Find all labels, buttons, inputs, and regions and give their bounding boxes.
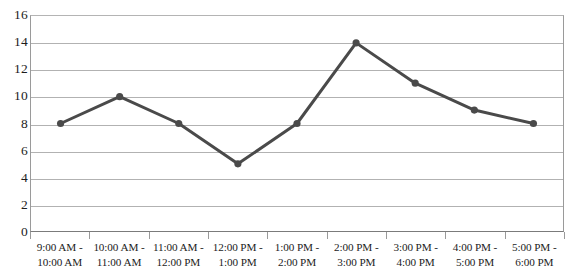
x-axis-category-label-line2: 1:00 PM bbox=[208, 255, 267, 270]
x-axis: 9:00 AM -10:00 AM10:00 AM -11:00 AM11:00… bbox=[30, 239, 564, 275]
x-axis-category-label-line1: 11:00 AM - bbox=[149, 240, 208, 255]
x-axis-category-label-line1: 5:00 PM - bbox=[505, 240, 564, 255]
y-axis-tick-label: 12 bbox=[2, 63, 28, 77]
y-axis-tick-label: 14 bbox=[2, 35, 28, 49]
data-point-marker: 3:00 PM - 4:00 PM: 11 bbox=[412, 80, 419, 87]
x-axis-category-label-line1: 12:00 PM - bbox=[208, 240, 267, 255]
x-axis-category-label: 1:00 PM -2:00 PM bbox=[267, 239, 326, 275]
plot-area: 9:00 AM - 10:00 AM: 810:00 AM - 11:00 AM… bbox=[30, 15, 564, 232]
x-axis-category-label: 5:00 PM -6:00 PM bbox=[505, 239, 564, 275]
x-axis-category-label-line1: 1:00 PM - bbox=[267, 240, 326, 255]
data-series: 9:00 AM - 10:00 AM: 810:00 AM - 11:00 AM… bbox=[31, 16, 563, 231]
x-axis-category-label-line1: 2:00 PM - bbox=[327, 240, 386, 255]
x-axis-category-label-line2: 2:00 PM bbox=[267, 255, 326, 270]
x-axis-tick bbox=[267, 232, 268, 239]
data-point-marker: 2:00 PM - 3:00 PM: 14 bbox=[353, 39, 360, 46]
series-line bbox=[61, 43, 534, 164]
x-axis-tick bbox=[505, 232, 506, 239]
y-axis-tick-label: 8 bbox=[2, 117, 28, 131]
data-point-marker: 1:00 PM - 2:00 PM: 8 bbox=[293, 120, 300, 127]
line-chart: 1614121086420 9:00 AM - 10:00 AM: 810:00… bbox=[0, 0, 569, 275]
y-axis-tick-label: 4 bbox=[2, 171, 28, 185]
y-axis-tick-label: 10 bbox=[2, 90, 28, 104]
y-axis-tick-label: 2 bbox=[2, 198, 28, 212]
x-axis-tick bbox=[149, 232, 150, 239]
x-axis-tick bbox=[386, 232, 387, 239]
data-point-marker: 12:00 PM - 1:00 PM: 5 bbox=[234, 160, 241, 167]
x-axis-category-label-line1: 4:00 PM - bbox=[445, 240, 504, 255]
y-axis-tick-label: 0 bbox=[2, 225, 28, 239]
y-axis-tick-label: 6 bbox=[2, 144, 28, 158]
data-point-marker: 11:00 AM - 12:00 PM: 8 bbox=[175, 120, 182, 127]
x-axis-category-label-line2: 6:00 PM bbox=[505, 255, 564, 270]
x-axis-category-label-line1: 3:00 PM - bbox=[386, 240, 445, 255]
x-axis-category-label-line2: 5:00 PM bbox=[445, 255, 504, 270]
x-axis-tick bbox=[445, 232, 446, 239]
x-axis-tick bbox=[564, 232, 565, 239]
x-axis-tick bbox=[208, 232, 209, 239]
data-point-marker: 10:00 AM - 11:00 AM: 10 bbox=[116, 93, 123, 100]
x-axis-category-label-line2: 10:00 AM bbox=[30, 255, 89, 270]
x-axis-category-label-line1: 9:00 AM - bbox=[30, 240, 89, 255]
x-axis-category-label: 4:00 PM -5:00 PM bbox=[445, 239, 504, 275]
x-axis-category-label: 9:00 AM -10:00 AM bbox=[30, 239, 89, 275]
data-point-marker: 4:00 PM - 5:00 PM: 9 bbox=[471, 106, 478, 113]
y-axis-tick-label: 16 bbox=[2, 8, 28, 22]
x-axis-ticks bbox=[30, 232, 564, 239]
x-axis-category-label-line1: 10:00 AM - bbox=[89, 240, 148, 255]
x-axis-category-label-line2: 11:00 AM bbox=[89, 255, 148, 270]
x-axis-category-label-line2: 12:00 PM bbox=[149, 255, 208, 270]
x-axis-category-label: 11:00 AM -12:00 PM bbox=[149, 239, 208, 275]
y-axis: 1614121086420 bbox=[0, 0, 28, 275]
x-axis-category-label: 3:00 PM -4:00 PM bbox=[386, 239, 445, 275]
x-axis-tick bbox=[30, 232, 31, 239]
x-axis-category-label-line2: 4:00 PM bbox=[386, 255, 445, 270]
x-axis-category-label-line2: 3:00 PM bbox=[327, 255, 386, 270]
data-point-marker: 5:00 PM - 6:00 PM: 8 bbox=[530, 120, 537, 127]
x-axis-tick bbox=[89, 232, 90, 239]
data-point-marker: 9:00 AM - 10:00 AM: 8 bbox=[57, 120, 64, 127]
x-axis-category-label: 2:00 PM -3:00 PM bbox=[327, 239, 386, 275]
x-axis-category-label: 10:00 AM -11:00 AM bbox=[89, 239, 148, 275]
x-axis-category-label: 12:00 PM -1:00 PM bbox=[208, 239, 267, 275]
x-axis-tick bbox=[327, 232, 328, 239]
